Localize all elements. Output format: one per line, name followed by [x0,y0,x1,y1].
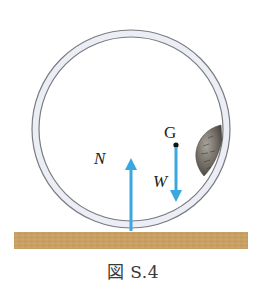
label-n: N [93,149,107,168]
label-g: G [164,123,176,142]
normal-force-arrow [125,158,137,231]
weight-arrow [170,147,182,202]
figure-caption: 図 S.4 [0,258,266,283]
center-of-gravity-dot [173,142,178,147]
label-w: W [153,172,169,191]
ground-surface [14,232,248,249]
physics-diagram: G N W [0,0,266,284]
